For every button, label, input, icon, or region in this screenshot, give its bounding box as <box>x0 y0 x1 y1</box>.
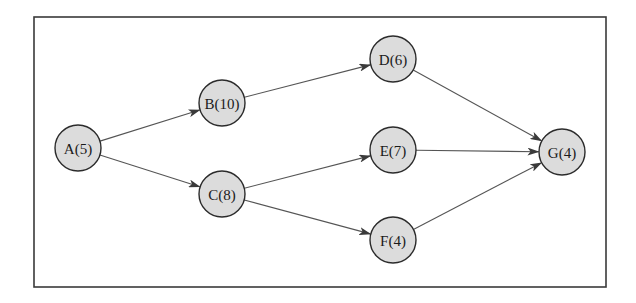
edge-b-to-d <box>244 65 370 97</box>
node-d: D(6) <box>370 36 416 82</box>
node-g: G(4) <box>539 129 585 175</box>
edge-e-to-g <box>416 150 539 151</box>
edge-f-to-g <box>413 163 541 230</box>
diagram-canvas: A(5)B(10)C(8)D(6)E(7)F(4)G(4) <box>0 0 636 303</box>
edge-c-to-f <box>244 200 370 234</box>
edge-d-to-g <box>413 70 541 141</box>
node-label: E(7) <box>380 143 407 160</box>
edge-a-to-b <box>100 110 200 141</box>
node-label: B(10) <box>205 96 240 113</box>
node-label: D(6) <box>379 52 407 69</box>
node-a: A(5) <box>55 125 101 171</box>
node-f: F(4) <box>370 217 416 263</box>
node-e: E(7) <box>370 127 416 173</box>
edge-c-to-e <box>244 156 370 188</box>
edges-group <box>100 65 542 234</box>
nodes-group: A(5)B(10)C(8)D(6)E(7)F(4)G(4) <box>55 36 585 263</box>
node-label: G(4) <box>548 145 576 162</box>
node-label: F(4) <box>380 233 406 250</box>
node-c: C(8) <box>199 171 245 217</box>
edge-a-to-c <box>100 155 200 187</box>
node-label: C(8) <box>208 187 236 204</box>
node-b: B(10) <box>199 80 245 126</box>
node-label: A(5) <box>64 141 92 158</box>
